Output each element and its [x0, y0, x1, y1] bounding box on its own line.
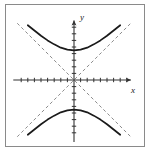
plot-canvas: y x — [0, 0, 151, 153]
y-axis-label: y — [79, 12, 84, 22]
x-axis-label: x — [130, 85, 135, 95]
hyperbola-figure: y x — [0, 0, 151, 153]
